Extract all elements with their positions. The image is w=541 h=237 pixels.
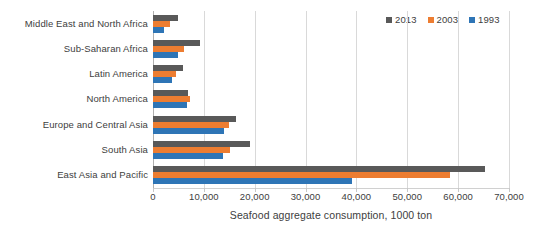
x-tick-label: 0 — [150, 191, 155, 202]
category-label: Middle East and North Africa — [25, 18, 153, 29]
x-tick-label: 30,000 — [291, 191, 321, 202]
gridline — [509, 11, 510, 188]
plot-area: Middle East and North AfricaSub-Saharan … — [153, 11, 509, 189]
x-tick-label: 50,000 — [392, 191, 422, 202]
category-label: Latin America — [89, 68, 153, 79]
x-tick-label: 40,000 — [342, 191, 372, 202]
x-tick-label: 10,000 — [189, 191, 219, 202]
category-label: South Asia — [102, 144, 153, 155]
x-axis-title: Seafood aggregate consumption, 1000 ton — [153, 209, 509, 221]
bar-group: Latin America — [153, 62, 509, 87]
x-tick-label: 60,000 — [443, 191, 473, 202]
bar-group: Sub-Saharan Africa — [153, 36, 509, 61]
bar-group: North America — [153, 87, 509, 112]
bar-group: Europe and Central Asia — [153, 112, 509, 137]
category-label: Europe and Central Asia — [43, 119, 153, 130]
category-label: East Asia and Pacific — [57, 169, 153, 180]
bar-1993 — [153, 77, 172, 83]
bar-1993 — [153, 178, 352, 184]
category-label: North America — [87, 93, 154, 104]
x-tick-label: 70,000 — [494, 191, 524, 202]
bar-1993 — [153, 153, 223, 159]
bar-group: Middle East and North Africa — [153, 11, 509, 36]
bar-1993 — [153, 128, 224, 134]
seafood-consumption-bar-chart: 201320031993 Middle East and North Afric… — [0, 0, 541, 237]
category-label: Sub-Saharan Africa — [64, 43, 153, 54]
bar-1993 — [153, 27, 164, 33]
bar-group: East Asia and Pacific — [153, 163, 509, 188]
x-tick-label: 20,000 — [240, 191, 270, 202]
bar-group: South Asia — [153, 137, 509, 162]
bar-1993 — [153, 52, 178, 58]
bar-1993 — [153, 102, 187, 108]
